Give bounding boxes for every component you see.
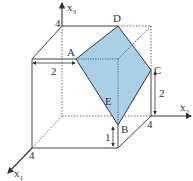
point-b-label: B: [121, 123, 128, 135]
x1-label: x1: [14, 167, 24, 181]
tick-x2-4: 4: [147, 118, 153, 130]
dim-2-c: 2: [159, 87, 165, 99]
dim-1-b: 1: [105, 131, 111, 143]
tick-x1-4: 4: [29, 149, 35, 161]
plane-e-label: E: [105, 95, 112, 107]
point-c-label: C: [154, 64, 161, 76]
x3-label: x3: [67, 1, 77, 16]
dim-2-top: 2: [51, 65, 57, 77]
point-a-label: A: [67, 46, 75, 58]
cube-diagram: x3 x2 x1 4 4 4 A D C B E 2 2 1: [0, 0, 193, 181]
tick-x3-4: 4: [55, 17, 61, 29]
point-d-label: D: [113, 12, 121, 24]
plane-section: [76, 26, 151, 125]
x2-label: x2: [180, 101, 190, 116]
